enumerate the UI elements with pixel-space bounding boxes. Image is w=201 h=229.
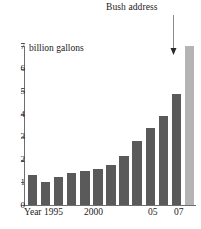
x-tick-label: 2000 [84,207,103,218]
y-tick-label: 6 [13,64,25,73]
y-tick-label-wrap: 3 [0,132,25,141]
bar [28,175,37,205]
bar [41,182,50,205]
y-tick-label: 2 [13,155,25,164]
x-tick-label: Year 1995 [24,207,63,218]
chart-screenshot: Bush address 01234567 billion gallons Ye… [0,0,201,229]
y-tick-label: 5 [13,87,25,96]
bar [54,177,63,205]
bar [106,165,115,205]
bar [80,171,89,205]
y-tick-label-wrap: 5 [0,87,25,96]
x-axis-line [24,205,196,206]
x-tick-label: 05 [148,207,158,218]
plot-area: 01234567 billion gallons Year 1995200005… [0,0,201,229]
bar [159,116,168,205]
bar [93,169,102,205]
bar [119,156,128,205]
x-tick-label: 07 [174,207,184,218]
bar [146,128,155,205]
y-tick-label: 7 [13,42,25,51]
bar [132,141,141,205]
y-tick-label: 3 [13,132,25,141]
y-tick-label-wrap: 6 [0,64,25,73]
y-tick-label: 1 [13,178,25,187]
bar-highlight [185,46,194,205]
bar [67,173,76,205]
y-tick-label: 4 [13,110,25,119]
bar-series [26,46,196,205]
y-tick-label-wrap: 7 [0,42,25,51]
y-tick-label-wrap: 0 [0,201,25,210]
bar [172,94,181,205]
y-tick-label-wrap: 1 [0,178,25,187]
y-tick-label-wrap: 2 [0,155,25,164]
y-tick-label-wrap: 4 [0,110,25,119]
